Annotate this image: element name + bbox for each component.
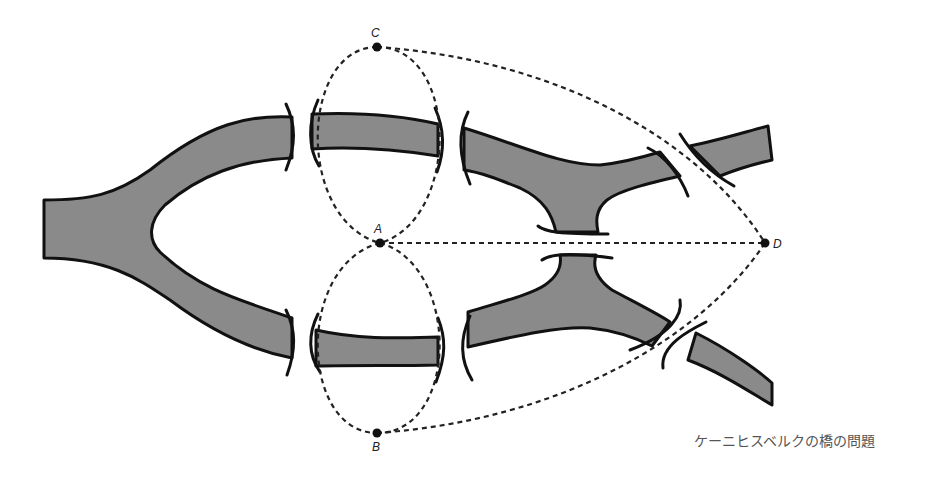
- river-lower-mid: [316, 330, 438, 366]
- konigsberg-bridges-diagram: C A B D: [0, 0, 935, 482]
- node-label-a: A: [373, 222, 382, 236]
- node-a: [376, 239, 385, 248]
- river-upper-mid: [312, 113, 438, 156]
- node-b: [373, 429, 382, 438]
- node-label-b: B: [372, 440, 380, 454]
- node-label-c: C: [371, 26, 380, 40]
- figure-caption: ケーニヒスベルクの橋の問題: [694, 430, 875, 450]
- river-lower-far-right: [688, 333, 772, 405]
- river-upper-right: [464, 128, 680, 232]
- river-upper-far-right: [690, 126, 772, 176]
- river-lower-right: [468, 255, 670, 347]
- node-label-d: D: [773, 237, 782, 251]
- river-left-fork: [44, 117, 292, 358]
- node-d: [761, 239, 770, 248]
- graph-edges: [318, 47, 765, 433]
- node-c: [373, 43, 382, 52]
